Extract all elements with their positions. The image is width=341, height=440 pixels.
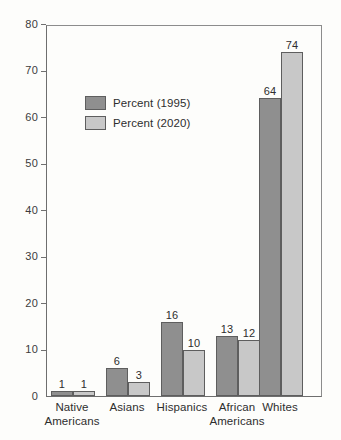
bar <box>183 350 205 397</box>
x-axis-category-label: Whites <box>235 401 325 415</box>
plot-area: 1163161013126474 <box>46 25 322 397</box>
bar-value-label: 6 <box>100 355 134 368</box>
y-axis-tick: 80 <box>0 25 46 26</box>
y-axis-tick-label: 50 <box>25 156 38 170</box>
bar-value-label: 3 <box>122 369 156 382</box>
y-axis-tick-label: 20 <box>25 296 38 310</box>
y-axis-tick: 10 <box>0 350 46 351</box>
y-axis-tick: 20 <box>0 304 46 305</box>
y-axis-tick: 60 <box>0 118 46 119</box>
y-axis-tick-label: 40 <box>25 203 38 217</box>
legend-swatch <box>85 96 106 110</box>
legend-label: Percent (2020) <box>113 116 190 130</box>
bar <box>128 382 150 396</box>
y-axis-tick-label: 60 <box>25 110 38 124</box>
y-axis-tick-label: 30 <box>25 249 38 263</box>
y-axis-tick: 0 <box>0 397 46 398</box>
bar <box>238 340 260 396</box>
bar-value-label: 1 <box>67 378 101 391</box>
bar <box>216 336 238 396</box>
y-axis-tick: 70 <box>0 71 46 72</box>
bar <box>51 391 73 396</box>
legend-label: Percent (1995) <box>113 96 190 110</box>
legend-item: Percent (2020) <box>85 115 190 130</box>
bar-chart-figure: 80706050403020100 1163161013126474 Nativ… <box>0 0 341 440</box>
chart-legend: Percent (1995)Percent (2020) <box>85 95 190 135</box>
bar-value-label: 10 <box>177 337 211 350</box>
bar <box>161 322 183 396</box>
bar <box>73 391 95 396</box>
y-axis-tick: 50 <box>0 164 46 165</box>
y-axis-tick-label: 10 <box>25 342 38 356</box>
bar-value-label: 74 <box>275 39 309 52</box>
bar <box>281 52 303 396</box>
bar-value-label: 16 <box>155 309 189 322</box>
legend-item: Percent (1995) <box>85 95 190 110</box>
y-axis-tick-label: 70 <box>25 63 38 77</box>
y-axis-tick: 40 <box>0 211 46 212</box>
y-axis-tick-label: 80 <box>25 17 38 31</box>
y-axis-tick: 30 <box>0 257 46 258</box>
bar <box>259 98 281 396</box>
legend-swatch <box>85 116 106 130</box>
